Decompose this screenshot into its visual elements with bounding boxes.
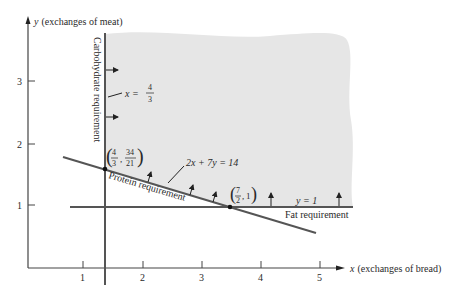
svg-text:4: 4 <box>112 148 116 157</box>
x-axis-arrow-icon <box>336 266 345 271</box>
svg-text:): ) <box>251 184 257 205</box>
x-tick-1: 1 <box>80 272 85 283</box>
svg-text:4: 4 <box>148 83 152 92</box>
y-axis-label: y(exchanges of meat) <box>33 16 123 28</box>
svg-text:7: 7 <box>236 186 240 195</box>
carbohydrate-requirement-label: Carbohydrate requirement <box>92 37 103 142</box>
svg-text:21: 21 <box>126 159 134 168</box>
svg-text:,: , <box>242 191 244 201</box>
y-tick-1: 1 <box>17 200 22 211</box>
x-tick-3: 3 <box>199 272 204 283</box>
x-axis <box>28 266 345 271</box>
svg-text:34: 34 <box>126 148 134 157</box>
y-tick-2: 2 <box>17 139 22 150</box>
svg-text:3: 3 <box>148 95 152 104</box>
svg-text:3: 3 <box>112 159 116 168</box>
x-tick-5: 5 <box>317 272 322 283</box>
x-tick-4: 4 <box>258 272 263 283</box>
fat-equation: y = 1 <box>295 195 317 206</box>
y-ticks: 1 2 3 <box>17 76 35 211</box>
svg-text:1: 1 <box>246 191 251 201</box>
y-axis <box>26 16 31 268</box>
y-tick-3: 3 <box>17 76 22 87</box>
linear-programming-figure: 1 2 3 4 5 1 2 3 y(exchanges of meat) x(e… <box>0 0 449 300</box>
fat-requirement-label: Fat requirement <box>285 209 349 220</box>
x-axis-label: x(exchanges of bread) <box>349 263 441 275</box>
x-tick-2: 2 <box>140 272 145 283</box>
corner-point-2 <box>228 205 233 210</box>
svg-text:): ) <box>137 145 144 168</box>
corner-point-1 <box>103 167 108 172</box>
x-ticks: 1 2 3 4 5 <box>80 261 322 283</box>
svg-text:,: , <box>120 154 122 164</box>
svg-text:x =: x = <box>124 88 139 99</box>
svg-text:2: 2 <box>236 196 240 205</box>
protein-equation: 2x + 7y = 14 <box>186 157 238 168</box>
y-axis-arrow-icon <box>26 16 31 24</box>
